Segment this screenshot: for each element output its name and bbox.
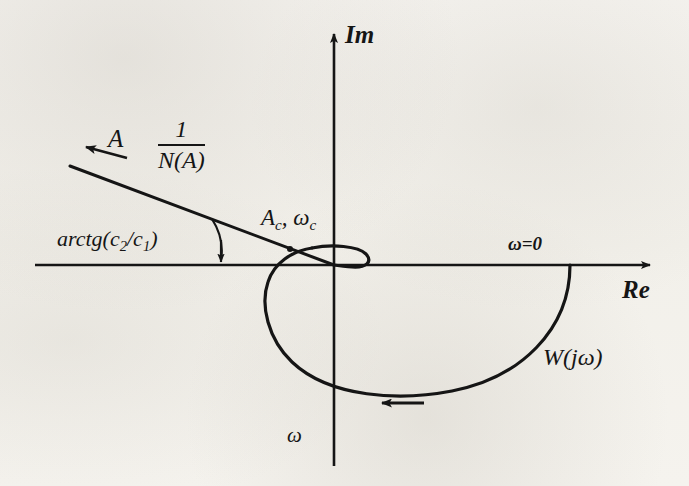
nyquist-locus-curve [265,246,570,396]
fraction-denominator: N(A) [158,148,205,173]
critical-omega-symbol: ω [293,205,309,230]
nyquist-diagram-figure: Im Re A 1 N(A) Ac, ωc arctg(c2/c1) ω=0 W… [0,0,689,486]
omega-direction-label: ω [287,425,302,446]
critical-point-label: Ac, ωc [261,206,316,232]
critical-amplitude-symbol: A [261,205,275,230]
inverse-describing-function-label: 1 N(A) [158,117,205,173]
fraction-bar [158,144,205,146]
omega-zero-label: ω=0 [508,234,542,253]
real-axis-label: Re [622,277,650,302]
angle-subscript-2: 2 [120,238,127,254]
angle-indicator [212,219,222,262]
angle-prefix: arctg(c [57,226,120,251]
critical-omega-subscript: c [310,216,317,233]
critical-point-marker [287,246,293,252]
critical-amplitude-subscript: c [275,216,282,233]
angle-suffix: ) [150,226,157,251]
angle-label: arctg(c2/c1) [57,228,157,253]
angle-middle: /c [127,226,143,251]
imaginary-axis-label: Im [345,22,374,47]
transfer-function-label: W(jω) [543,345,603,369]
critical-point-separator: , [282,205,294,230]
amplitude-label: A [108,126,123,151]
fraction-numerator: 1 [158,117,205,143]
